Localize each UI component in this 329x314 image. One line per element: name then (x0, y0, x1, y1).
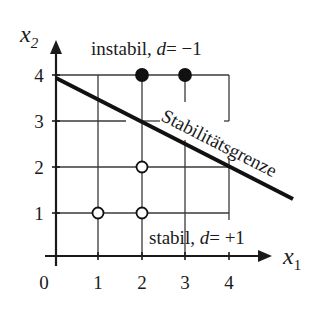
point-unstable-2-4 (136, 69, 148, 81)
x-tick-label-4: 4 (224, 272, 234, 293)
point-stable-2-1 (137, 208, 148, 219)
x-tick-label-3: 3 (180, 272, 190, 293)
point-stable-2-2 (137, 162, 148, 173)
stable-label: stabil, d= +1 (149, 227, 245, 248)
point-unstable-3-4 (179, 69, 191, 81)
y-tick-label-1: 1 (34, 203, 44, 224)
x-tick-label-1: 1 (93, 272, 103, 293)
point-stable-1-1 (93, 208, 104, 219)
x-axis-label: x1 (282, 243, 301, 273)
stability-boundary-line (56, 78, 293, 199)
y-axis-arrow-icon (50, 40, 62, 54)
origin-label: 0 (39, 272, 49, 293)
unstable-label: instabil, d= −1 (91, 38, 202, 59)
stability-diagram: x2 x1 0 1 2 3 4 1 2 3 4 instabil, d= −1 … (0, 0, 329, 314)
x-axis-arrow-icon (258, 250, 272, 262)
y-tick-label-4: 4 (34, 65, 44, 86)
tick-labels: 0 1 2 3 4 1 2 3 4 (34, 65, 234, 293)
y-axis-label: x2 (19, 21, 39, 51)
y-tick-label-3: 3 (34, 111, 44, 132)
x-tick-label-2: 2 (137, 272, 147, 293)
boundary-label: Stabilitätsgrenze (158, 105, 280, 181)
y-tick-label-2: 2 (34, 157, 44, 178)
